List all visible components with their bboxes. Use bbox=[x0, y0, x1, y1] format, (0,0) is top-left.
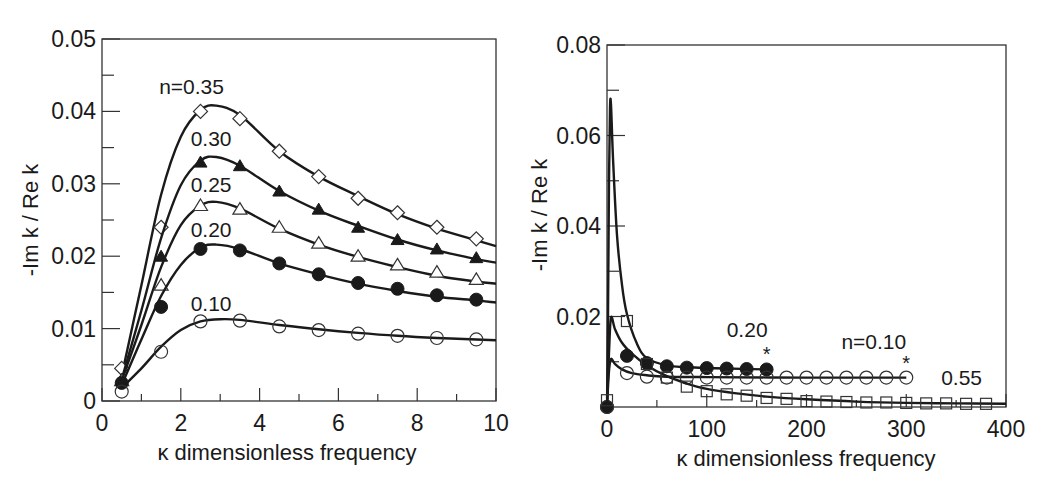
asterisk-marker-icon: * bbox=[902, 352, 910, 374]
series-label: 0.55 bbox=[941, 366, 982, 389]
figure: 024681000.010.020.030.040.05n=0.350.300.… bbox=[0, 0, 1048, 486]
series-curve bbox=[122, 244, 496, 385]
left-x-axis-label: κ dimensionless frequency bbox=[157, 440, 416, 465]
x-tick-label: 0 bbox=[96, 410, 109, 436]
square-open-marker-icon bbox=[641, 359, 652, 370]
square-open-marker-icon bbox=[821, 396, 832, 407]
right-plot-frame bbox=[607, 45, 1006, 407]
x-tick-label: 100 bbox=[688, 416, 726, 442]
diamond-open-marker-icon bbox=[391, 206, 405, 220]
circle-open-marker-icon bbox=[860, 371, 873, 384]
series-label: 0.20 bbox=[727, 318, 768, 341]
circle-open-marker-icon bbox=[155, 345, 168, 358]
circle-open-marker-icon bbox=[820, 371, 833, 384]
y-tick-label: 0.08 bbox=[556, 32, 601, 58]
square-open-marker-icon bbox=[661, 372, 672, 383]
series-n-0-35: n=0.35 bbox=[115, 75, 496, 376]
square-open-marker-icon bbox=[741, 390, 752, 401]
right-chart-panel: 01002003004000.020.040.060.08*0.20*n=0.1… bbox=[556, 32, 1025, 442]
triangle-filled-marker-icon bbox=[233, 160, 246, 171]
circle-filled-marker-icon bbox=[470, 293, 483, 306]
series-label: n=0.35 bbox=[159, 75, 224, 98]
triangle-open-marker-icon bbox=[391, 258, 405, 270]
right-y-axis-label: -Im k / Re k bbox=[527, 158, 552, 271]
square-open-marker-icon bbox=[841, 397, 852, 408]
x-tick-label: 200 bbox=[787, 416, 825, 442]
triangle-filled-marker-icon bbox=[273, 185, 286, 196]
diamond-open-marker-icon bbox=[469, 232, 483, 246]
circle-open-marker-icon bbox=[470, 333, 483, 346]
x-tick-label: 8 bbox=[411, 410, 424, 436]
triangle-open-marker-icon bbox=[194, 199, 208, 211]
left-y-axis-label: -Im k / Re k bbox=[18, 163, 43, 276]
y-tick-label: 0.04 bbox=[556, 213, 601, 239]
circle-open-marker-icon bbox=[780, 371, 793, 384]
square-open-marker-icon bbox=[861, 397, 872, 408]
y-tick-label: 0.05 bbox=[51, 26, 96, 52]
circle-open-marker-icon bbox=[352, 327, 365, 340]
series-label: 0.25 bbox=[191, 173, 232, 196]
x-tick-label: 300 bbox=[887, 416, 925, 442]
circle-open-marker-icon bbox=[273, 320, 286, 333]
x-tick-label: 2 bbox=[174, 410, 187, 436]
circle-filled-marker-icon bbox=[312, 268, 325, 281]
circle-open-marker-icon bbox=[194, 315, 207, 328]
series-n-0-30: 0.30 bbox=[115, 127, 496, 384]
y-tick-label: 0.03 bbox=[51, 171, 96, 197]
series-label: 0.30 bbox=[191, 127, 232, 150]
circle-open-marker-icon bbox=[391, 329, 404, 342]
diamond-open-marker-icon bbox=[312, 170, 326, 184]
circle-filled-marker-icon bbox=[233, 244, 246, 257]
square-open-marker-icon bbox=[881, 397, 892, 408]
circle-filled-marker-icon bbox=[620, 349, 633, 362]
left-chart-panel: 024681000.010.020.030.040.05n=0.350.300.… bbox=[51, 26, 509, 436]
x-tick-label: 400 bbox=[987, 416, 1025, 442]
y-tick-label: 0.01 bbox=[51, 316, 96, 342]
square-open-marker-icon bbox=[621, 316, 632, 327]
series-label: 0.20 bbox=[191, 218, 232, 241]
square-open-marker-icon bbox=[681, 381, 692, 392]
x-tick-label: 0 bbox=[601, 416, 614, 442]
y-tick-label: 0.06 bbox=[556, 123, 601, 149]
circle-filled-marker-icon bbox=[430, 289, 443, 302]
square-open-marker-icon bbox=[761, 392, 772, 403]
square-open-marker-icon bbox=[921, 398, 932, 409]
circle-open-marker-icon bbox=[620, 367, 633, 380]
x-tick-label: 4 bbox=[253, 410, 266, 436]
right-x-axis-label: κ dimensionless frequency bbox=[676, 446, 935, 471]
circle-open-marker-icon bbox=[880, 371, 893, 384]
square-open-marker-icon bbox=[901, 397, 912, 408]
x-tick-label: 6 bbox=[332, 410, 345, 436]
square-open-marker-icon bbox=[941, 398, 952, 409]
diamond-open-marker-icon bbox=[233, 112, 247, 126]
triangle-open-marker-icon bbox=[430, 266, 444, 278]
circle-filled-marker-icon bbox=[155, 300, 168, 313]
square-open-marker-icon bbox=[602, 395, 613, 406]
circle-open-marker-icon bbox=[840, 371, 853, 384]
circle-open-marker-icon bbox=[720, 371, 733, 384]
square-open-marker-icon bbox=[981, 398, 992, 409]
square-open-marker-icon bbox=[701, 386, 712, 397]
circle-open-marker-icon bbox=[700, 371, 713, 384]
circle-open-marker-icon bbox=[640, 370, 653, 383]
square-open-marker-icon bbox=[721, 389, 732, 400]
series-label: 0.10 bbox=[191, 292, 232, 315]
asterisk-marker-icon: * bbox=[763, 343, 771, 365]
y-tick-label: 0.02 bbox=[556, 304, 601, 330]
series-n-0-20: 0.20 bbox=[115, 218, 496, 389]
square-open-marker-icon bbox=[781, 393, 792, 404]
x-tick-label: 10 bbox=[483, 410, 509, 436]
circle-filled-marker-icon bbox=[352, 276, 365, 289]
circle-filled-marker-icon bbox=[194, 242, 207, 255]
circle-open-marker-icon bbox=[430, 332, 443, 345]
series-curve bbox=[122, 319, 496, 388]
circle-open-marker-icon bbox=[740, 371, 753, 384]
series-n-0-10: 0.10 bbox=[115, 292, 496, 399]
circle-filled-marker-icon bbox=[391, 282, 404, 295]
circle-open-marker-icon bbox=[800, 371, 813, 384]
y-tick-label: 0.04 bbox=[51, 98, 96, 124]
circle-filled-marker-icon bbox=[273, 257, 286, 270]
square-open-marker-icon bbox=[961, 398, 972, 409]
triangle-open-marker-icon bbox=[233, 203, 247, 215]
diamond-open-marker-icon bbox=[430, 220, 444, 234]
